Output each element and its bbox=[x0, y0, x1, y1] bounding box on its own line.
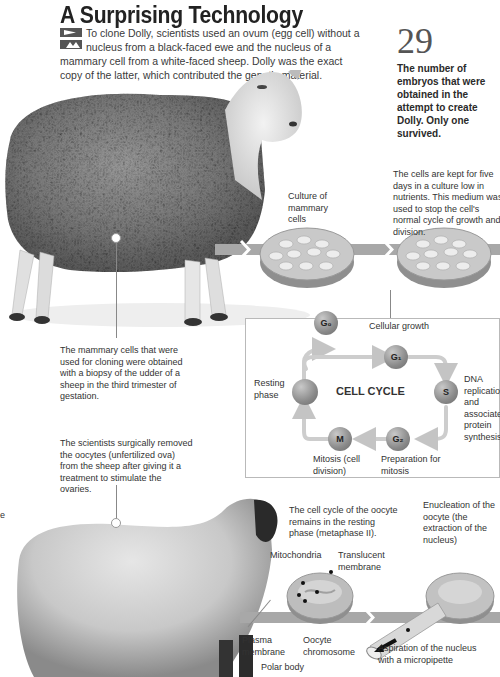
enucleation-note: Enucleation of the oocyte (the extractio… bbox=[423, 500, 500, 546]
label-cellular-growth: Cellular growth bbox=[369, 321, 429, 333]
callout-leader-line bbox=[116, 243, 117, 338]
factoid-number: 29 bbox=[397, 20, 433, 62]
callout-dot bbox=[111, 233, 121, 243]
cell-cycle-node-g2: G₂ bbox=[386, 427, 410, 451]
resting-note: The cell cycle of the oocyte remains in … bbox=[289, 505, 399, 540]
label-polar-body: Polar body bbox=[261, 662, 304, 674]
left-edge-text-fragment: e bbox=[0, 510, 5, 522]
factoid-text: The number of embryos that were obtained… bbox=[397, 62, 500, 140]
label-resting-phase: Resting phase bbox=[254, 378, 294, 401]
petri-dish-culture-1 bbox=[258, 222, 356, 290]
callout-dot bbox=[111, 518, 121, 528]
chevron-right-icon bbox=[382, 240, 394, 263]
section-marker-icon bbox=[60, 27, 82, 51]
oocyte-leader-line bbox=[116, 485, 117, 520]
culture-note: The cells are kept for five days in a cu… bbox=[393, 169, 500, 238]
cell-cycle-title: CELL CYCLE bbox=[336, 385, 405, 397]
cell-cycle-leader-line bbox=[390, 290, 391, 319]
page-title: A Surprising Technology bbox=[60, 2, 303, 29]
cell-cycle-node-s: S bbox=[434, 380, 458, 404]
white-faced-sheep-image bbox=[0, 70, 310, 340]
cell-cycle-node-g1: G₁ bbox=[384, 345, 408, 369]
label-mitosis: Mitosis (cell division) bbox=[313, 454, 363, 477]
biopsy-note: The mammary cells that were used for clo… bbox=[60, 345, 195, 403]
label-oocyte-chromosome: Oocyte chromosome bbox=[303, 635, 358, 658]
cell-cycle-panel: G₀ G₁ S M G₂ CELL CYCLE Cellular growth … bbox=[245, 318, 500, 478]
cell-cycle-node-resting bbox=[292, 379, 318, 405]
culture-label: Culture of mammary cells bbox=[288, 191, 348, 226]
label-translucent-membrane: Translucent membrane bbox=[338, 550, 388, 573]
chevron-right-icon bbox=[239, 240, 251, 263]
label-dna-replication: DNA replication and associated protein s… bbox=[464, 374, 500, 443]
label-plasma-membrane: Plasma membrane bbox=[242, 635, 282, 658]
oocyte-note: The scientists surgically removed the oo… bbox=[60, 438, 195, 496]
label-aspiration: Aspiration of the nucleus with a micropi… bbox=[378, 643, 493, 666]
oocyte-illustration bbox=[285, 568, 355, 630]
cell-cycle-node-g0: G₀ bbox=[314, 311, 338, 335]
cell-cycle-node-m: M bbox=[328, 427, 352, 451]
label-mitochondria: Mitochondria bbox=[270, 550, 322, 562]
label-preparation-for-mitosis: Preparation for mitosis bbox=[381, 454, 441, 477]
